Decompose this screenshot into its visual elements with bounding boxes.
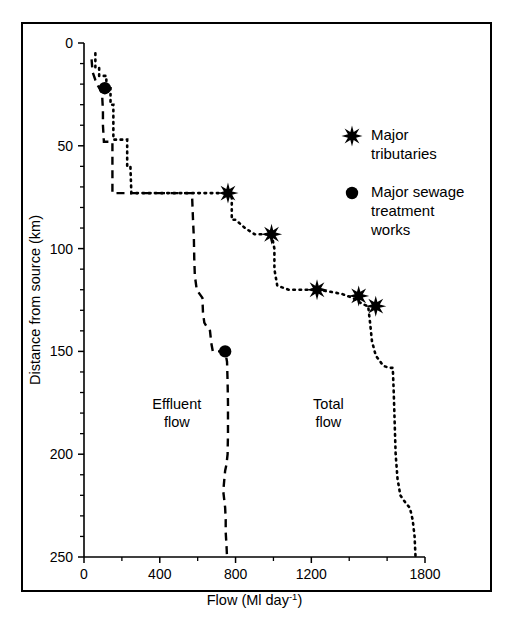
series-layer [92,53,416,557]
legend-label: Majortributaries [371,126,437,162]
marker-major-sewage-works [219,345,231,357]
curve-annotation-total-flow: Totalflow [313,396,344,430]
legend-star-icon [342,126,363,147]
legend-layer: MajortributariesMajor sewagetreatmentwor… [342,126,465,239]
marker-major-tributary [261,224,282,245]
y-tick-label: 250 [50,549,74,565]
series-line-effluent-flow [92,59,228,557]
markers-layer [99,82,387,358]
x-tick-label: 1800 [409,566,440,582]
labels-layer: Flow (Ml day-1)Distance from source (km)… [27,215,344,608]
flow-distance-chart: 050100150200250040080012001800 Flow (Ml … [0,0,514,635]
y-axis-title: Distance from source (km) [27,215,43,385]
marker-major-tributary [217,183,238,204]
marker-major-tributary [307,279,328,300]
marker-major-tributary [365,296,386,317]
y-tick-label: 0 [65,35,73,51]
y-tick-label: 150 [50,343,74,359]
legend-circle-icon [346,187,358,199]
marker-major-sewage-works [99,82,111,94]
marker-major-tributary [348,285,369,306]
x-tick-label: 400 [148,566,172,582]
x-tick-label: 0 [80,566,88,582]
axes-layer: 050100150200250040080012001800 [50,35,441,582]
legend-item: Major sewagetreatmentworks [346,183,465,238]
series-line-total-flow [95,53,415,557]
legend-item: Majortributaries [342,126,437,163]
y-tick-label: 50 [57,138,73,154]
figure-root: 050100150200250040080012001800 Flow (Ml … [0,0,514,635]
x-axis-title: Flow (Ml day-1) [207,591,302,608]
legend-label: Major sewagetreatmentworks [370,183,464,238]
y-tick-label: 200 [50,446,74,462]
x-tick-label: 1200 [296,566,327,582]
x-tick-label: 800 [224,566,248,582]
curve-annotation-effluent-flow: Effluentflow [152,396,201,430]
y-tick-label: 100 [50,241,74,257]
